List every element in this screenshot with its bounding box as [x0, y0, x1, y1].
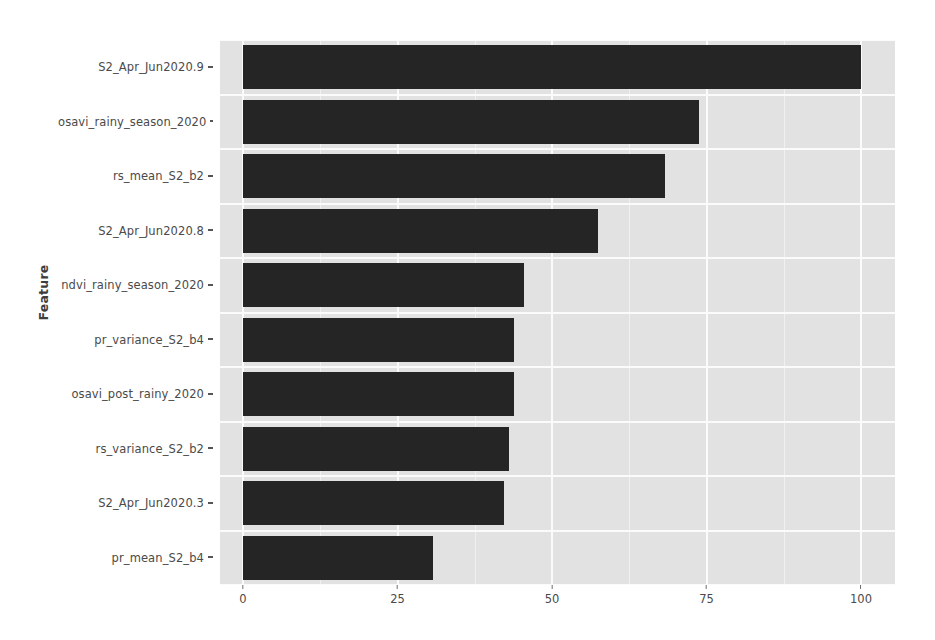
- y-axis-tick-label: ndvi_rainy_season_2020: [61, 278, 204, 292]
- x-axis-tick-label: 100: [850, 592, 872, 606]
- y-axis-tick-label: rs_mean_S2_b2: [113, 169, 204, 183]
- y-axis-tick-labels: S2_Apr_Jun2020.9osavi_rainy_season_2020r…: [58, 40, 213, 585]
- bar: [243, 536, 433, 580]
- gridline-horizontal: [220, 257, 895, 259]
- y-axis-tick-mark: [208, 175, 213, 177]
- y-axis-tick-mark: [208, 284, 213, 286]
- y-axis-tick-label: osavi_post_rainy_2020: [71, 387, 204, 401]
- x-axis-tick-mark: [551, 585, 552, 589]
- gridline-horizontal: [220, 40, 895, 41]
- x-axis-tick-label: 50: [545, 592, 560, 606]
- x-axis-tick-mark: [860, 585, 861, 589]
- y-axis-tick: pr_mean_S2_b4: [58, 531, 213, 586]
- y-axis-tick-label: rs_variance_S2_b2: [96, 442, 204, 456]
- plot-panel: [220, 40, 895, 585]
- y-axis-tick-mark: [208, 556, 213, 558]
- x-axis-tick: 100: [850, 585, 872, 606]
- gridline-horizontal: [220, 366, 895, 368]
- gridline-horizontal: [220, 530, 895, 532]
- y-axis-tick-mark: [208, 447, 213, 449]
- x-axis-tick-mark: [242, 585, 243, 589]
- y-axis-title: Feature: [30, 0, 58, 585]
- y-axis-tick: rs_variance_S2_b2: [58, 422, 213, 477]
- bar: [243, 263, 524, 307]
- y-axis-tick-mark: [208, 393, 213, 395]
- y-axis-tick-label: S2_Apr_Jun2020.3: [98, 496, 204, 510]
- gridline-horizontal: [220, 475, 895, 477]
- bar: [243, 209, 598, 253]
- x-axis-tick: 75: [699, 585, 714, 606]
- y-axis-tick-label: pr_variance_S2_b4: [94, 333, 204, 347]
- y-axis-title-label: Feature: [37, 265, 52, 321]
- x-axis-tick-label: 75: [699, 592, 714, 606]
- y-axis-tick-mark: [208, 229, 213, 231]
- gridline-horizontal: [220, 203, 895, 205]
- x-axis-tick: 50: [545, 585, 560, 606]
- bar: [243, 154, 665, 198]
- y-axis-tick-label: S2_Apr_Jun2020.8: [98, 224, 204, 238]
- gridline-horizontal: [220, 94, 895, 96]
- bar: [243, 318, 514, 362]
- y-axis-tick-mark: [210, 120, 213, 122]
- bar: [243, 45, 861, 89]
- feature-importance-bar-chart: Feature S2_Apr_Jun2020.9osavi_rainy_seas…: [0, 0, 935, 640]
- x-axis-tick-label: 0: [239, 592, 246, 606]
- y-axis-tick: ndvi_rainy_season_2020: [58, 258, 213, 313]
- gridline-horizontal: [220, 421, 895, 423]
- y-axis-tick-label: pr_mean_S2_b4: [112, 551, 204, 565]
- x-axis-tick-labels: 0255075100: [220, 585, 895, 625]
- y-axis-tick: pr_variance_S2_b4: [58, 313, 213, 368]
- y-axis-tick: S2_Apr_Jun2020.9: [58, 40, 213, 95]
- x-axis-tick: 25: [390, 585, 405, 606]
- gridline-horizontal: [220, 312, 895, 314]
- x-axis-tick-label: 25: [390, 592, 405, 606]
- y-axis-tick-label: osavi_rainy_season_2020: [58, 115, 206, 129]
- y-axis-tick: osavi_rainy_season_2020: [58, 95, 213, 150]
- x-axis-tick: 0: [239, 585, 246, 606]
- x-axis-tick-mark: [706, 585, 707, 589]
- y-axis-tick: osavi_post_rainy_2020: [58, 367, 213, 422]
- y-axis-tick: rs_mean_S2_b2: [58, 149, 213, 204]
- gridline-horizontal: [220, 148, 895, 150]
- y-axis-tick-mark: [208, 66, 213, 68]
- y-axis-tick-mark: [208, 502, 213, 504]
- bar: [243, 372, 514, 416]
- bar: [243, 100, 699, 144]
- y-axis-tick-label: S2_Apr_Jun2020.9: [98, 60, 204, 74]
- bar: [243, 427, 509, 471]
- x-axis-tick-mark: [397, 585, 398, 589]
- y-axis-tick: S2_Apr_Jun2020.8: [58, 204, 213, 259]
- bar: [243, 481, 504, 525]
- y-axis-tick: S2_Apr_Jun2020.3: [58, 476, 213, 531]
- y-axis-tick-mark: [208, 338, 213, 340]
